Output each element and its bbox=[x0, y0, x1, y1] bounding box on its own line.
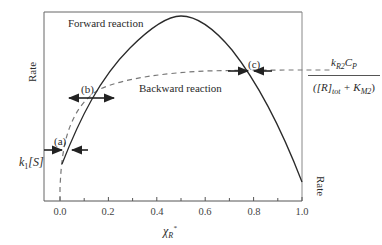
x-tick-2: 0.4 bbox=[150, 207, 163, 218]
point-a-label: (a) bbox=[54, 136, 66, 147]
x-axis-ticks bbox=[60, 197, 302, 201]
x-tick-0: 0.0 bbox=[53, 207, 66, 218]
y-axis-label-right: Rate bbox=[315, 176, 326, 196]
forward-reaction-label: Forward reaction bbox=[68, 18, 143, 29]
plot-frame bbox=[44, 12, 302, 201]
x-axis-label: χR* bbox=[163, 225, 177, 240]
x-tick-4: 0.8 bbox=[247, 207, 260, 218]
point-b-label: (b) bbox=[81, 84, 94, 95]
y-axis-label-left: Rate bbox=[27, 62, 38, 82]
x-tick-1: 0.2 bbox=[101, 207, 114, 218]
x-tick-5: 1.0 bbox=[295, 207, 308, 218]
fraction-denominator: ([R]tot + KM2) bbox=[306, 76, 382, 96]
point-c-label: (c) bbox=[248, 59, 260, 70]
fraction-numerator: kR2CP bbox=[306, 56, 382, 75]
x-tick-3: 0.6 bbox=[198, 207, 211, 218]
forward-reaction-curve bbox=[62, 16, 302, 182]
backward-reaction-label: Backward reaction bbox=[139, 83, 222, 94]
k1-S-label: k1[S] bbox=[19, 156, 44, 171]
saturation-fraction-label: kR2CP ([R]tot + KM2) bbox=[306, 56, 382, 96]
